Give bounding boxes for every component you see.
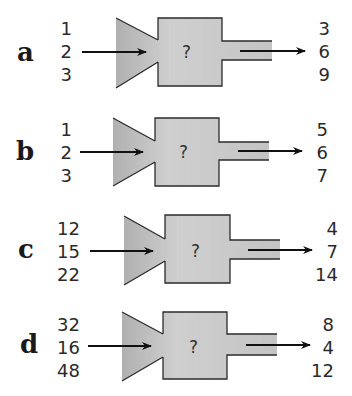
machine-question-mark: ? xyxy=(179,144,188,161)
panel-label: d xyxy=(20,331,38,357)
machine-question-mark: ? xyxy=(191,243,200,260)
panel-d: d 32 16 48 ? 8 4 12 xyxy=(0,294,352,390)
input-value: 22 xyxy=(50,263,80,286)
input-value: 48 xyxy=(50,359,80,382)
panel-a: a 1 2 3 ? 3 6 9 xyxy=(0,0,352,96)
input-value: 2 xyxy=(42,141,72,164)
output-value: 9 xyxy=(300,63,330,86)
output-value: 14 xyxy=(308,263,338,286)
output-values: 3 6 9 xyxy=(300,17,330,86)
input-values: 12 15 22 xyxy=(50,217,80,286)
panel-label: c xyxy=(18,236,34,262)
machine-question-mark: ? xyxy=(182,44,191,61)
panel-label: a xyxy=(17,39,34,65)
input-value: 2 xyxy=(42,40,72,63)
output-value: 5 xyxy=(298,118,328,141)
output-value: 6 xyxy=(300,40,330,63)
output-value: 8 xyxy=(304,313,334,336)
panel-label: b xyxy=(16,138,34,164)
output-value: 12 xyxy=(304,359,334,382)
input-values: 32 16 48 xyxy=(50,313,80,382)
input-value: 32 xyxy=(50,313,80,336)
output-values: 4 7 14 xyxy=(308,217,338,286)
output-value: 4 xyxy=(304,336,334,359)
input-value: 3 xyxy=(42,164,72,187)
input-value: 15 xyxy=(50,240,80,263)
input-values: 1 2 3 xyxy=(42,17,72,86)
panel-c: c 12 15 22 ? 4 7 14 xyxy=(0,198,352,294)
input-value: 3 xyxy=(42,63,72,86)
input-values: 1 2 3 xyxy=(42,118,72,187)
machine-question-mark: ? xyxy=(189,339,198,356)
input-value: 16 xyxy=(50,336,80,359)
output-value: 4 xyxy=(308,217,338,240)
output-value: 6 xyxy=(298,141,328,164)
output-values: 8 4 12 xyxy=(304,313,334,382)
panel-b: b 1 2 3 ? 5 6 7 xyxy=(0,100,352,196)
output-value: 7 xyxy=(298,164,328,187)
input-value: 12 xyxy=(50,217,80,240)
output-value: 3 xyxy=(300,17,330,40)
output-value: 7 xyxy=(308,240,338,263)
output-values: 5 6 7 xyxy=(298,118,328,187)
input-value: 1 xyxy=(42,118,72,141)
input-value: 1 xyxy=(42,17,72,40)
